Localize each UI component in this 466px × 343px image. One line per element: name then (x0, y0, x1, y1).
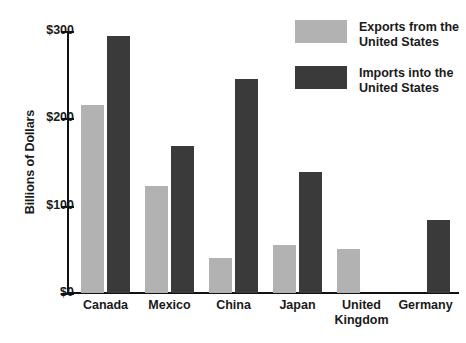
y-tick-mark (61, 118, 74, 120)
x-axis-label: Germany (381, 298, 466, 313)
bar-imports (235, 79, 258, 293)
bar-group (145, 31, 194, 293)
y-tick-label: $300 (16, 23, 74, 37)
exports-swatch-icon (295, 20, 347, 43)
bar-exports (273, 245, 296, 293)
y-tick-label: $200 (16, 110, 74, 124)
bar-imports (427, 220, 450, 293)
y-tick-mark (61, 293, 74, 295)
bar-exports (145, 186, 168, 293)
bar-exports (337, 249, 360, 293)
legend-label-imports: Imports into the United States (359, 66, 453, 95)
bar-imports (299, 172, 322, 293)
bar-imports (107, 36, 130, 293)
y-axis-title: Billions of Dollars (23, 82, 37, 242)
bar-chart: Billions of Dollars $300$200$100$0 Canad… (0, 0, 466, 343)
legend-label-exports: Exports from the United States (359, 20, 459, 49)
y-tick-mark (61, 31, 74, 33)
y-tick-label: $100 (16, 198, 74, 212)
imports-swatch-icon (295, 66, 347, 89)
bar-group (209, 31, 258, 293)
y-tick-mark (61, 206, 74, 208)
legend-item-exports: Exports from the United States (295, 20, 459, 49)
bar-group (81, 31, 130, 293)
y-tick-label: $0 (16, 285, 74, 299)
bar-exports (81, 105, 104, 293)
bar-imports (171, 146, 194, 293)
bar-exports (209, 258, 232, 293)
chart-legend: Exports from the United States Imports i… (295, 20, 459, 112)
legend-item-imports: Imports into the United States (295, 66, 459, 95)
